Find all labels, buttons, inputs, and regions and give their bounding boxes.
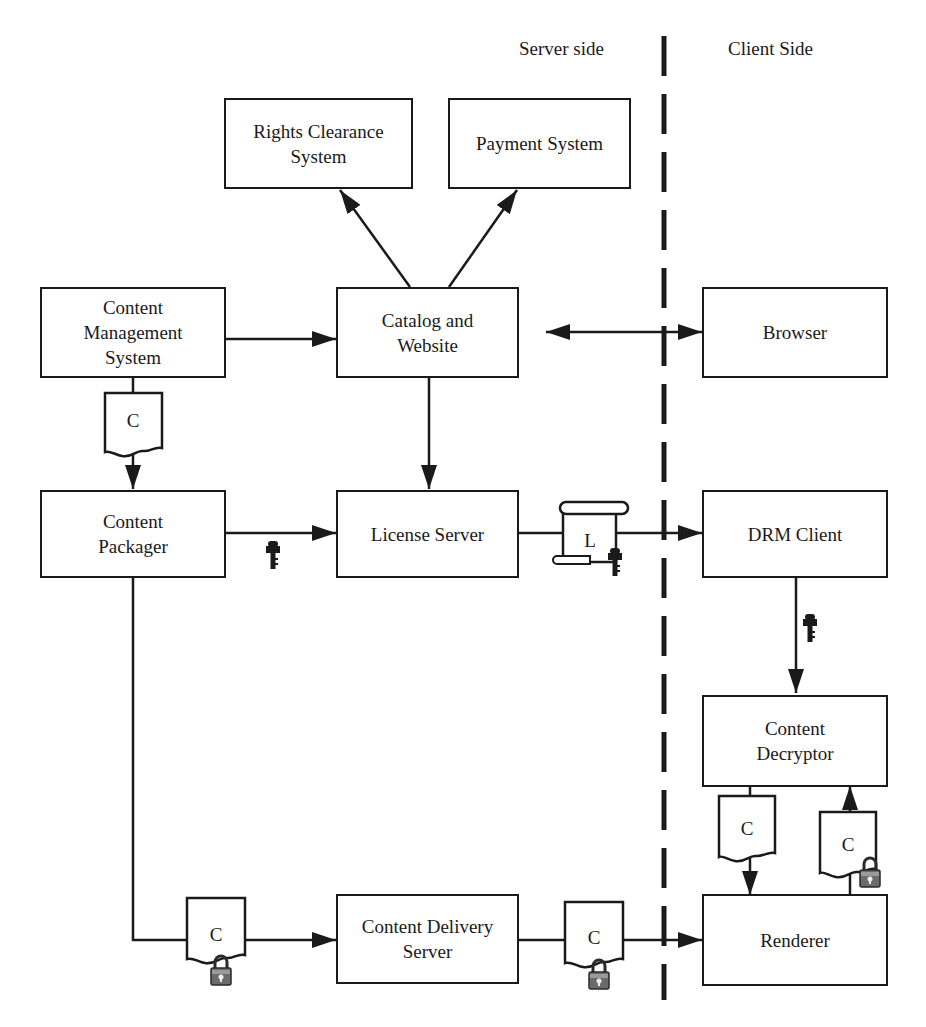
- license-server-box: License Server: [336, 490, 519, 578]
- content-token-label: C: [201, 924, 231, 946]
- drm-client-box: DRM Client: [702, 490, 888, 578]
- content-delivery-server-box: Content Delivery Server: [336, 894, 519, 984]
- key-icon: [266, 541, 280, 569]
- padlock-icon: [211, 956, 231, 985]
- renderer-box: Renderer: [702, 894, 888, 986]
- content-packager-box: Content Packager: [40, 490, 226, 578]
- server-side-label: Server side: [519, 38, 604, 60]
- content-token-label: C: [732, 818, 762, 840]
- content-management-system-box: Content Management System: [40, 287, 226, 378]
- content-decryptor-box: Content Decryptor: [702, 695, 888, 787]
- content-token-label: C: [833, 834, 863, 856]
- key-icon: [803, 614, 817, 642]
- padlock-icon: [589, 960, 609, 989]
- browser-box: Browser: [702, 287, 888, 378]
- content-token-label: C: [118, 410, 148, 432]
- client-side-label: Client Side: [728, 38, 813, 60]
- catalog-and-website-box: Catalog and Website: [336, 287, 519, 378]
- content-token-label: C: [579, 927, 609, 949]
- rights-clearance-system-box: Rights Clearance System: [224, 98, 413, 189]
- license-token-label: L: [575, 530, 605, 552]
- payment-system-box: Payment System: [448, 98, 631, 189]
